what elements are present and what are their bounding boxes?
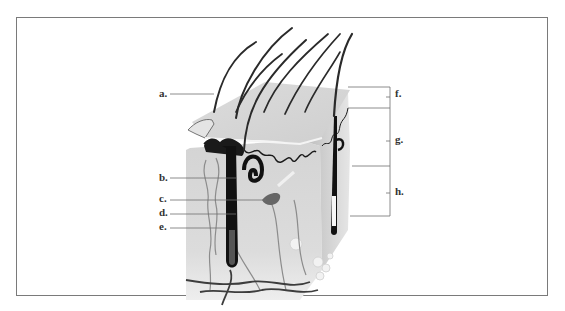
skin-diagram [0,0,565,311]
right-bracket [348,87,390,216]
label-e: e. [159,221,167,232]
label-h: h. [395,186,404,197]
label-b: b. [159,172,168,183]
label-f: f. [395,88,401,99]
label-c: c. [159,193,167,204]
label-a: a. [159,88,167,99]
skin-block [186,82,350,305]
label-g: g. [395,134,403,145]
label-d: d. [159,207,168,218]
